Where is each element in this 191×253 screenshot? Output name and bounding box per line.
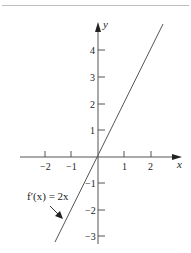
x-axis-label: x xyxy=(176,158,182,170)
y-tick-label: 2 xyxy=(90,99,95,110)
y-tick-label: −3 xyxy=(85,231,96,242)
x-tick-label: −2 xyxy=(40,161,51,172)
y-axis-arrow-icon xyxy=(95,22,101,32)
y-tick-label: −2 xyxy=(85,205,96,216)
function-line xyxy=(55,24,163,242)
y-axis-label: y xyxy=(102,18,108,30)
y-tick-label: 3 xyxy=(90,72,95,83)
function-label: f′(x) = 2x xyxy=(27,190,69,203)
y-tick-label: −1 xyxy=(85,178,96,189)
y-tick-label: 1 xyxy=(90,125,95,136)
y-tick-label: 4 xyxy=(90,45,95,56)
x-tick-label: −1 xyxy=(66,161,77,172)
x-tick-label: 1 xyxy=(122,161,127,172)
function-plot: −2 −1 1 2 x 4 3 2 1 −1 −2 −3 y f′(x) = 2… xyxy=(0,0,191,253)
x-tick-label: 2 xyxy=(148,161,153,172)
